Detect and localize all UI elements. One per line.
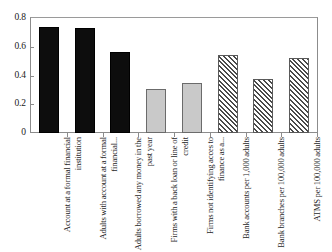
bar[interactable] — [75, 28, 95, 133]
bar-slot — [146, 18, 166, 133]
bar-slot — [182, 18, 202, 133]
x-axis-category-label: Firms not identifying acces to finance a… — [205, 137, 231, 252]
bar[interactable] — [182, 83, 202, 133]
x-axis-category-label: Firms with a back loan or line of credit — [169, 137, 195, 252]
x-axis-labels: Account at a formal financial institutio… — [0, 133, 332, 250]
y-tick-mark — [30, 104, 34, 105]
y-tick-label: 0.4 — [14, 71, 26, 81]
x-axis-category-label: Bank branches per 100,000 adults — [276, 137, 302, 252]
y-tick-label: 0.2 — [14, 100, 26, 110]
bar[interactable] — [289, 58, 309, 133]
bar-slot — [289, 18, 309, 133]
bar-slot — [75, 18, 95, 133]
x-axis-category-label: Bank accounts per 1,000 adults — [241, 137, 267, 252]
x-axis-category-label: ATMS per 100,000 adults — [312, 137, 332, 252]
y-tick-mark — [30, 76, 34, 77]
bar-slot — [110, 18, 130, 133]
x-axis-category-label: Account at a formal financial institutio… — [62, 137, 88, 252]
y-tick-label: 0.6 — [14, 42, 26, 52]
bar-slot — [253, 18, 273, 133]
bar[interactable] — [110, 52, 130, 133]
bar[interactable] — [39, 27, 59, 133]
bar[interactable] — [218, 55, 238, 133]
bars-container — [31, 18, 317, 133]
y-tick-label: 0.8 — [14, 13, 26, 23]
bar-slot — [39, 18, 59, 133]
x-axis-category-label: Adults with account at a formal financia… — [98, 137, 124, 252]
y-tick-mark — [30, 47, 34, 48]
x-axis-category-label: Adults borrowed any money in the past ye… — [133, 137, 159, 252]
bar[interactable] — [146, 89, 166, 133]
bar-slot — [218, 18, 238, 133]
bar[interactable] — [253, 79, 273, 133]
